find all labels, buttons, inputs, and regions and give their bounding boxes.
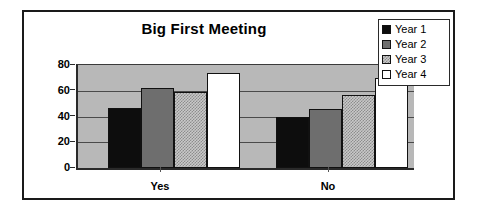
y-tick-label-0: 0 bbox=[44, 162, 70, 173]
legend-swatch-icon-year-3 bbox=[382, 55, 391, 64]
bar-no-year-2 bbox=[309, 109, 342, 168]
y-tick-mark-0 bbox=[70, 167, 75, 168]
gridline-60 bbox=[78, 91, 414, 92]
bar-yes-year-2 bbox=[141, 88, 174, 168]
legend-item-year-1: Year 1 bbox=[382, 22, 446, 37]
legend-swatch-icon-year-4 bbox=[382, 70, 391, 79]
legend-label-year-4: Year 4 bbox=[395, 69, 426, 80]
bar-yes-year-3 bbox=[174, 92, 207, 168]
x-tick-yes bbox=[160, 167, 161, 172]
y-tick-mark-40 bbox=[70, 115, 75, 116]
bar-yes-year-4 bbox=[207, 73, 240, 168]
plot-area bbox=[76, 64, 414, 170]
y-axis: 80 60 40 20 0 bbox=[36, 64, 70, 167]
chart-legend: Year 1 Year 2 Year 3 Year 4 bbox=[378, 19, 450, 86]
y-tick-label-20: 20 bbox=[44, 136, 70, 147]
y-tick-label-60: 60 bbox=[44, 84, 70, 95]
legend-label-year-1: Year 1 bbox=[395, 24, 426, 35]
legend-item-year-2: Year 2 bbox=[382, 37, 446, 52]
y-tick-label-40: 40 bbox=[44, 110, 70, 121]
x-axis-label-no: No bbox=[298, 180, 358, 192]
bar-no-year-4 bbox=[375, 78, 408, 168]
x-axis-label-yes: Yes bbox=[130, 180, 190, 192]
chart-title: Big First Meeting bbox=[24, 20, 384, 37]
legend-item-year-3: Year 3 bbox=[382, 52, 446, 67]
legend-swatch-icon-year-1 bbox=[382, 25, 391, 34]
y-tick-mark-20 bbox=[70, 141, 75, 142]
legend-item-year-4: Year 4 bbox=[382, 67, 446, 82]
x-tick-no bbox=[328, 167, 329, 172]
legend-label-year-3: Year 3 bbox=[395, 54, 426, 65]
bar-no-year-3 bbox=[342, 95, 375, 168]
bar-yes-year-1 bbox=[108, 108, 141, 168]
legend-label-year-2: Year 2 bbox=[395, 39, 426, 50]
legend-swatch-icon-year-2 bbox=[382, 40, 391, 49]
y-tick-mark-80 bbox=[70, 64, 75, 65]
chart-frame: Big First Meeting 80 60 40 20 0 Yes No Y… bbox=[22, 10, 455, 200]
y-tick-label-80: 80 bbox=[44, 59, 70, 70]
bar-no-year-1 bbox=[276, 117, 309, 169]
y-tick-mark-60 bbox=[70, 89, 75, 90]
